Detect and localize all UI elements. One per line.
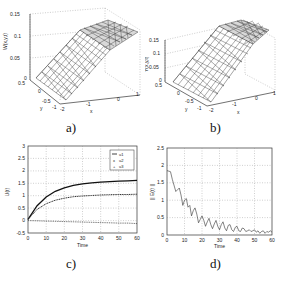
y-tick: -1 xyxy=(197,105,202,111)
caption-b: b) xyxy=(210,120,221,136)
legend-label: u1 xyxy=(119,152,124,157)
y-tick: -0.5 xyxy=(185,98,194,104)
y-tick: 0 xyxy=(38,88,41,94)
x-tick: 40 xyxy=(98,235,104,241)
y-tick: 3 xyxy=(22,143,25,149)
z-tick: 0.15 xyxy=(149,37,159,43)
y-tick: 0 xyxy=(177,90,180,96)
legend-c: x + u1 u2 u3 xyxy=(110,150,134,170)
y-tick: 2 xyxy=(161,162,164,168)
legend-marker-u2: x xyxy=(113,158,115,163)
x-tick: 1 xyxy=(136,91,139,97)
x-tick: -1 xyxy=(86,101,91,107)
caption-c: c) xyxy=(66,256,76,272)
x-tick: 0 xyxy=(255,95,258,101)
x-tick: 10 xyxy=(182,237,188,243)
z-tick: 0.05 xyxy=(149,64,159,70)
panel-a: 0.15 0.1 0.05 0 W(x,y,t) 0.5 0 -0.5 -1 y… xyxy=(0,0,145,120)
y-tick: 1 xyxy=(22,192,25,198)
z-axis-label-a: W(x,y,t) xyxy=(2,33,8,50)
x-axis-label-a: x xyxy=(90,108,93,114)
x-tick: -1 xyxy=(232,101,237,107)
x-tick: 0 xyxy=(117,96,120,102)
y-tick: 0 xyxy=(22,217,25,223)
y-tick: 0.5 xyxy=(157,214,164,220)
x-ticks-b: -2 -1 0 1 xyxy=(209,90,276,113)
y-tick: 2.5 xyxy=(157,145,164,151)
panel-d: 0 0.5 1 1.5 2 2.5 0 10 20 30 40 50 60 Ti… xyxy=(145,140,290,250)
y-tick: -0.5 xyxy=(16,230,25,236)
z-ticks-a: 0.15 0.1 0.05 0 xyxy=(10,11,27,81)
x-tick: 30 xyxy=(80,235,86,241)
surface-plot-b: 0.15 0.1 0.05 0 Y(x,y,t) 0.5 0 -0.5 -1 y… xyxy=(145,0,290,120)
x-tick: 50 xyxy=(116,235,122,241)
y-tick: 0 xyxy=(161,232,164,238)
z-tick: 0.1 xyxy=(153,50,160,56)
x-tick: -2 xyxy=(209,107,214,113)
x-tick: 10 xyxy=(43,235,49,241)
x-axis-label-d: Time xyxy=(214,243,225,249)
legend-label: u2 xyxy=(119,158,124,163)
y-tick: -0.5 xyxy=(42,98,51,104)
y-tick: 1.5 xyxy=(18,180,25,186)
x-tick: 0 xyxy=(166,237,169,243)
y-axis-label-a: y xyxy=(40,105,43,111)
x-tick: 50 xyxy=(252,237,258,243)
y-tick: -1 xyxy=(52,104,57,110)
z-tick: 0.05 xyxy=(10,55,20,61)
x-tick: -2 xyxy=(60,106,65,112)
y-tick: 0.5 xyxy=(155,82,162,88)
z-axis-label-b: Y(x,y,t) xyxy=(145,56,149,72)
y-tick: 0.5 xyxy=(18,205,25,211)
surface-plot-a: 0.15 0.1 0.05 0 W(x,y,t) 0.5 0 -0.5 -1 y… xyxy=(0,0,145,120)
x-tick: 40 xyxy=(234,237,240,243)
y-axis-label-d: || E(t) || xyxy=(149,184,155,200)
z-tick: 0.1 xyxy=(14,33,21,39)
panel-c: -0.5 0 0.5 1 1.5 2 2.5 3 0 10 20 30 40 5… xyxy=(0,140,145,250)
line-chart-d: 0 0.5 1 1.5 2 2.5 0 10 20 30 40 50 60 Ti… xyxy=(145,140,290,250)
y-tick: 2 xyxy=(22,167,25,173)
x-tick: 1 xyxy=(273,90,276,96)
line-chart-c: -0.5 0 0.5 1 1.5 2 2.5 3 0 10 20 30 40 5… xyxy=(0,140,145,250)
caption-d: d) xyxy=(210,256,221,272)
x-tick: 20 xyxy=(199,237,205,243)
x-tick: 0 xyxy=(27,235,30,241)
x-tick: 20 xyxy=(62,235,68,241)
y-ticks-c: -0.5 0 0.5 1 1.5 2 2.5 3 xyxy=(16,143,25,236)
x-tick: 60 xyxy=(134,235,140,241)
x-tick: 60 xyxy=(269,237,275,243)
x-ticks-c: 0 10 20 30 40 50 60 xyxy=(27,235,140,241)
x-axis-label-c: Time xyxy=(77,242,88,248)
mesh-surface-b xyxy=(173,20,269,102)
x-axis-label-b: x xyxy=(237,109,240,115)
y-tick: 1 xyxy=(161,197,164,203)
panel-b: 0.15 0.1 0.05 0 Y(x,y,t) 0.5 0 -0.5 -1 y… xyxy=(145,0,290,120)
y-axis-label-c: U(t) xyxy=(4,188,10,197)
y-tick: 2.5 xyxy=(18,155,25,161)
mesh-surface-a xyxy=(36,20,138,100)
y-ticks-d: 0 0.5 1 1.5 2 2.5 xyxy=(157,145,164,238)
z-tick: 0.15 xyxy=(10,11,20,17)
legend-label: u3 xyxy=(119,164,124,169)
y-axis-label-b: y xyxy=(185,106,188,112)
y-tick: 1.5 xyxy=(157,179,164,185)
caption-a: a) xyxy=(66,120,76,136)
y-tick: 0.5 xyxy=(18,80,25,86)
z-ticks-b: 0.15 0.1 0.05 0 xyxy=(149,37,162,83)
